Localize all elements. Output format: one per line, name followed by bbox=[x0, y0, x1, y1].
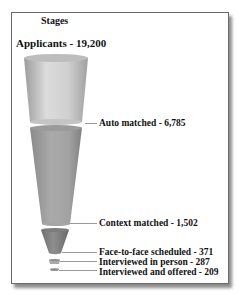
funnel-segment-applicants bbox=[24, 54, 88, 125]
leader-line-interviewed-offered bbox=[59, 270, 97, 271]
leader-line-context-matched bbox=[70, 223, 97, 224]
leader-line-face-to-face bbox=[62, 252, 97, 253]
stage-label-interviewed-in-person: Interviewed in person - 287 bbox=[99, 257, 210, 267]
stage-label-face-to-face: Face-to-face scheduled - 371 bbox=[99, 247, 213, 257]
funnel-segment-face-to-face bbox=[49, 259, 60, 264]
leader-line-interviewed-in-person bbox=[60, 261, 97, 262]
funnel-segment-auto-matched bbox=[30, 125, 82, 226]
stage-label-auto-matched: Auto matched - 6,785 bbox=[99, 118, 186, 128]
stage-label-interviewed-offered: Interviewed and offered - 209 bbox=[99, 267, 219, 277]
funnel-segment-interviewed bbox=[50, 268, 59, 271]
stage-label-context-matched: Context matched - 1,502 bbox=[99, 218, 198, 228]
funnel-segment-context-matched bbox=[41, 228, 69, 254]
leader-line-auto-matched bbox=[85, 123, 97, 124]
